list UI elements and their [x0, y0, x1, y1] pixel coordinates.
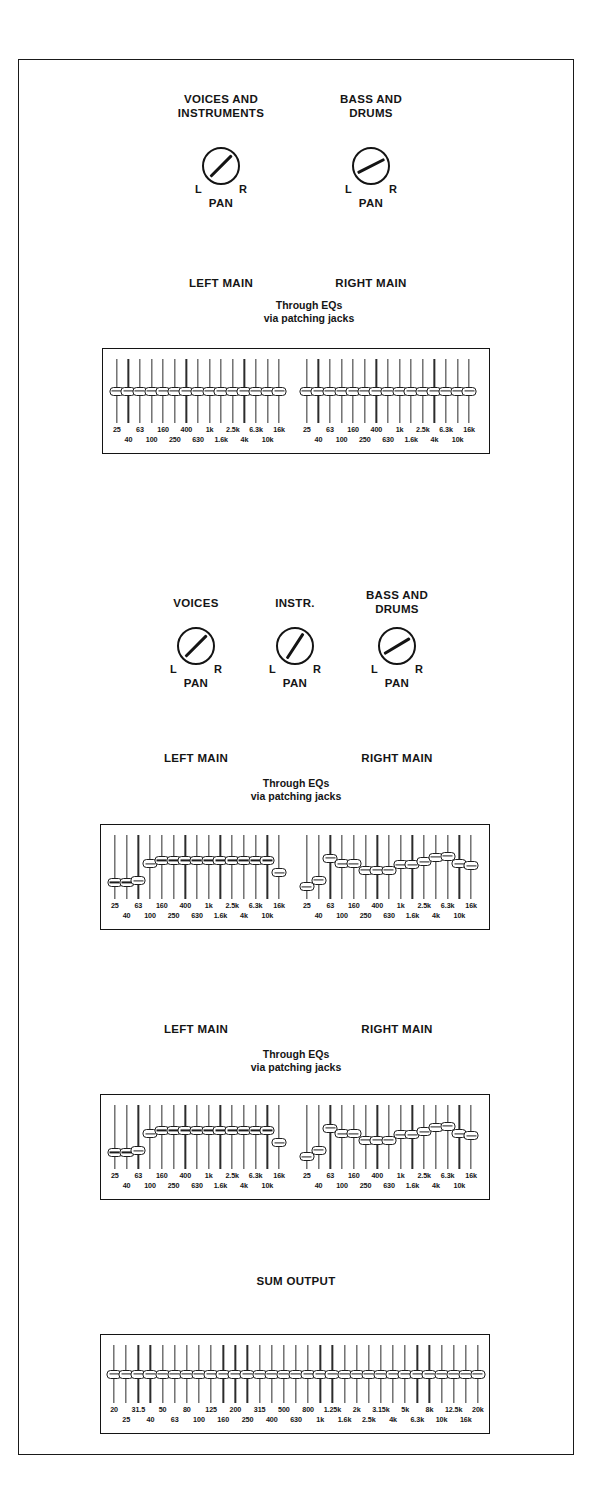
- knob-pan-label: PAN: [371, 677, 423, 689]
- pan-knob-voices[interactable]: LRPAN: [177, 627, 215, 665]
- eq-freq-label: 10k: [443, 911, 476, 920]
- slider-track: [126, 835, 127, 899]
- slider-track: [173, 1105, 174, 1169]
- slider-track: [114, 1105, 115, 1169]
- slider-track: [267, 1105, 268, 1169]
- bus-label-right-main: RIGHT MAIN: [301, 277, 441, 291]
- knob-label-left: L: [269, 663, 276, 675]
- slider-track: [435, 835, 436, 899]
- slider-track: [161, 835, 162, 899]
- knob-lr-labels: LR: [195, 183, 247, 195]
- pan-knob-bass-and-drums[interactable]: LRPAN: [352, 147, 390, 185]
- eq-panel-3: 2540631001602504006301k1.6k2.5k4k6.3k10k…: [100, 1094, 490, 1200]
- slider-cap[interactable]: [464, 861, 479, 870]
- slider-track: [232, 1105, 233, 1169]
- slider-track: [196, 835, 197, 899]
- knob-lr-labels: LR: [170, 663, 222, 675]
- eq-panel-1: 2540631001602504006301k1.6k2.5k4k6.3k10k…: [102, 348, 490, 454]
- diagram-frame: [18, 59, 574, 1455]
- knob-pan-label: PAN: [345, 197, 397, 209]
- eq-freq-label: 10k: [251, 435, 283, 444]
- knob-label-left: L: [371, 663, 378, 675]
- slider-track: [278, 835, 279, 899]
- slider-track: [138, 835, 139, 899]
- slider-cap[interactable]: [272, 387, 287, 396]
- diagram-page: VOICES AND INSTRUMENTSBASS AND DRUMSLRPA…: [0, 0, 593, 1512]
- slider-cap[interactable]: [470, 1370, 485, 1379]
- slider-track: [243, 1105, 244, 1169]
- eq-panel-sum: 202531.540506380100125160200250315400500…: [100, 1334, 490, 1434]
- slider-track: [185, 1105, 186, 1169]
- eq-freq-label: 20k: [461, 1405, 495, 1414]
- eq-freq-label: 16k: [455, 901, 488, 910]
- slider-track: [435, 1105, 436, 1169]
- slider-cap[interactable]: [462, 387, 477, 396]
- slider-track: [220, 1105, 221, 1169]
- pan-knob-instr[interactable]: LRPAN: [276, 627, 314, 665]
- knob-label-right: R: [214, 663, 222, 675]
- eq-bank: 2540631001602504006301k1.6k2.5k4k6.3k10k…: [301, 349, 475, 453]
- knob-label-left: L: [345, 183, 352, 195]
- eq-freq-label: 10k: [443, 1181, 476, 1190]
- bus-label-right-main-2: RIGHT MAIN: [327, 752, 467, 766]
- slider-track: [255, 1105, 256, 1169]
- slider-cap[interactable]: [272, 1138, 287, 1147]
- pan-knob-bass-and-drums-2[interactable]: LRPAN: [378, 627, 416, 665]
- knob-pan-label: PAN: [269, 677, 321, 689]
- slider-track: [196, 1105, 197, 1169]
- eq-bank: 202531.540506380100125160200250315400500…: [108, 1335, 484, 1433]
- bus-label-left-main-3: LEFT MAIN: [126, 1023, 266, 1037]
- slider-track: [114, 835, 115, 899]
- slider-track: [208, 1105, 209, 1169]
- eq-patch-note-3: Through EQs via patching jacks: [232, 1048, 360, 1073]
- slider-track: [424, 1105, 425, 1169]
- knob-lr-labels: LR: [371, 663, 423, 675]
- slider-cap[interactable]: [272, 868, 287, 877]
- eq-freq-label: 16k: [449, 1415, 483, 1424]
- pan-knob-voices-and-instruments[interactable]: LRPAN: [202, 147, 240, 185]
- eq-freq-label: 16k: [455, 1171, 488, 1180]
- source-label-voices-and-instruments: VOICES AND INSTRUMENTS: [146, 93, 296, 120]
- eq-bank: 2540631001602504006301k1.6k2.5k4k6.3k10k…: [111, 349, 285, 453]
- slider-track: [330, 835, 331, 899]
- slider-track: [126, 1105, 127, 1169]
- eq-freq-label: 10k: [251, 911, 284, 920]
- slider-cap[interactable]: [464, 1131, 479, 1140]
- source-label-bass-and-drums-2: BASS AND DRUMS: [327, 589, 467, 616]
- eq-patch-note-2: Through EQs via patching jacks: [232, 777, 360, 802]
- slider-track: [447, 835, 448, 899]
- slider-track: [447, 1105, 448, 1169]
- eq-panel-2: 2540631001602504006301k1.6k2.5k4k6.3k10k…: [100, 824, 490, 930]
- eq-freq-label: 16k: [453, 425, 485, 434]
- slider-track: [267, 835, 268, 899]
- sum-output-label: SUM OUTPUT: [216, 1275, 376, 1289]
- slider-track: [330, 1105, 331, 1169]
- bus-label-left-main-2: LEFT MAIN: [126, 752, 266, 766]
- knob-label-right: R: [415, 663, 423, 675]
- slider-track: [185, 835, 186, 899]
- knob-label-left: L: [170, 663, 177, 675]
- eq-bank: 2540631001602504006301k1.6k2.5k4k6.3k10k…: [301, 1095, 477, 1199]
- knob-label-right: R: [389, 183, 397, 195]
- source-label-bass-and-drums: BASS AND DRUMS: [296, 93, 446, 120]
- slider-track: [161, 1105, 162, 1169]
- knob-pan-label: PAN: [170, 677, 222, 689]
- eq-freq-label: 10k: [251, 1181, 284, 1190]
- slider-track: [173, 835, 174, 899]
- slider-track: [278, 1105, 279, 1169]
- knob-label-left: L: [195, 183, 202, 195]
- knob-pan-label: PAN: [195, 197, 247, 209]
- eq-freq-label: 10k: [441, 435, 473, 444]
- knob-label-right: R: [313, 663, 321, 675]
- slider-track: [220, 835, 221, 899]
- eq-bank: 2540631001602504006301k1.6k2.5k4k6.3k10k…: [109, 825, 285, 929]
- slider-track: [232, 835, 233, 899]
- slider-track: [318, 1105, 319, 1169]
- slider-track: [255, 835, 256, 899]
- eq-patch-note-1: Through EQs via patching jacks: [245, 299, 373, 324]
- knob-label-right: R: [239, 183, 247, 195]
- slider-track: [243, 835, 244, 899]
- knob-lr-labels: LR: [269, 663, 321, 675]
- knob-lr-labels: LR: [345, 183, 397, 195]
- slider-track: [138, 1105, 139, 1169]
